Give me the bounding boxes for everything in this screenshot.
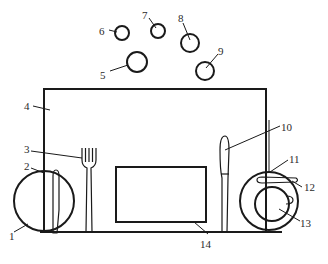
label-9: 9	[218, 45, 224, 57]
glass-8	[181, 34, 199, 52]
label-3: 3	[24, 143, 30, 155]
leader-10	[225, 126, 280, 150]
label-8: 8	[178, 12, 184, 24]
leader-5	[110, 65, 128, 71]
label-4: 4	[24, 100, 30, 112]
setting-area-outline	[44, 89, 266, 232]
dinner-plate-area	[116, 167, 206, 222]
dinner-knife	[220, 136, 229, 232]
leader-3	[31, 151, 82, 158]
place-setting-diagram: 1 2 3 4 5 6 7 8 9 10 11 12 13 14	[0, 0, 328, 264]
glass-9	[196, 62, 214, 80]
glass-7	[151, 24, 165, 38]
glass-6	[115, 26, 129, 40]
label-5: 5	[100, 69, 106, 81]
fork	[82, 148, 96, 232]
leader-11	[270, 160, 288, 172]
leader-1	[14, 224, 28, 232]
label-6: 6	[99, 25, 105, 37]
label-11: 11	[289, 153, 300, 165]
cup	[255, 187, 289, 221]
label-10: 10	[281, 121, 293, 133]
glass-5	[127, 52, 147, 72]
label-7: 7	[142, 9, 148, 21]
label-13: 13	[300, 217, 312, 229]
label-12: 12	[304, 181, 315, 193]
label-1: 1	[9, 230, 15, 242]
leader-4	[33, 106, 50, 110]
label-14: 14	[200, 238, 212, 250]
label-2: 2	[24, 160, 30, 172]
butter-knife	[53, 170, 59, 233]
teaspoon	[257, 177, 298, 183]
